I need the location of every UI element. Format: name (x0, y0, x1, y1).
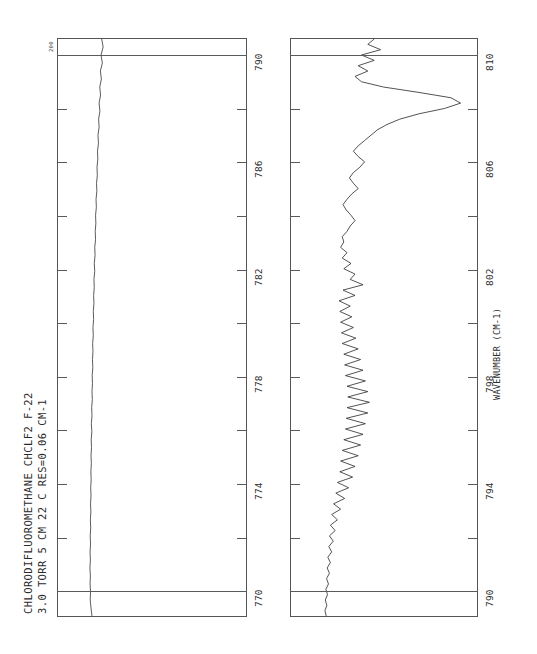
tick-right-786 (237, 162, 246, 163)
tick-right-782 (237, 270, 246, 271)
tick-left-792 (291, 538, 300, 539)
tick-label-810: 810 (484, 53, 495, 71)
tick-left-782 (58, 270, 67, 271)
gridline-810 (291, 55, 477, 56)
tick-label-770: 770 (253, 589, 264, 607)
tick-left-780 (58, 323, 67, 324)
tick-right-796 (468, 430, 477, 431)
tick-left-776 (58, 430, 67, 431)
tick-right-774 (237, 484, 246, 485)
gridline-770 (58, 591, 246, 592)
tick-label-786: 786 (253, 161, 264, 179)
tick-right-794 (468, 484, 477, 485)
tick-right-784 (237, 216, 246, 217)
spectrum-chart-canvas: CHLORODIFLUOROMETHANE CHCLF2 F-22 3.0 TO… (0, 0, 537, 654)
tick-left-798 (291, 377, 300, 378)
tick-left-806 (291, 162, 300, 163)
tick-right-788 (237, 109, 246, 110)
tick-right-802 (468, 270, 477, 271)
chart-title-line-1: CHLORODIFLUOROMETHANE CHCLF2 F-22 (22, 392, 34, 614)
tick-label-802: 802 (484, 268, 495, 286)
tick-label-806: 806 (484, 161, 495, 179)
tick-left-796 (291, 430, 300, 431)
tick-right-798 (468, 377, 477, 378)
tick-label-790: 790 (253, 53, 264, 71)
tick-label-782: 782 (253, 268, 264, 286)
tick-left-808 (291, 109, 300, 110)
x-axis-label: WAVENUMBER (CM-1) (492, 308, 502, 400)
tick-left-800 (291, 323, 300, 324)
tick-label-774: 774 (253, 482, 264, 500)
tick-left-784 (58, 216, 67, 217)
tick-left-772 (58, 538, 67, 539)
spectrum-panel-1 (57, 38, 247, 617)
tick-label-794: 794 (484, 482, 495, 500)
tick-right-804 (468, 216, 477, 217)
tick-right-778 (237, 377, 246, 378)
spectrum-trace-1 (58, 39, 246, 616)
gridline-790 (58, 55, 246, 56)
tick-left-804 (291, 216, 300, 217)
tick-right-772 (237, 538, 246, 539)
tick-right-806 (468, 162, 477, 163)
tick-right-776 (237, 430, 246, 431)
tick-right-800 (468, 323, 477, 324)
tick-left-788 (58, 109, 67, 110)
tick-right-780 (237, 323, 246, 324)
gridline-790 (291, 591, 477, 592)
spectrum-panel-2 (290, 38, 478, 617)
tick-left-774 (58, 484, 67, 485)
spectrum-trace-2 (291, 39, 477, 616)
tick-left-786 (58, 162, 67, 163)
tick-label-778: 778 (253, 375, 264, 393)
tick-right-808 (468, 109, 477, 110)
tick-left-778 (58, 377, 67, 378)
chart-title-line-2: 3.0 TORR 5 CM 22 C RES=0.06 CM-1 (36, 399, 48, 614)
tick-label-790: 790 (484, 589, 495, 607)
tick-left-802 (291, 270, 300, 271)
tick-left-794 (291, 484, 300, 485)
scale-label-200: 200 (48, 41, 54, 52)
tick-right-792 (468, 538, 477, 539)
